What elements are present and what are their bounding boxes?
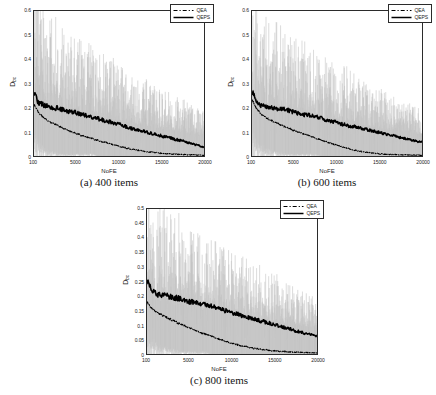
x-axis-label-b: NoFE (218, 168, 436, 174)
y-tick-label: 0.45 (122, 220, 144, 226)
x-tick-label: 5000 (183, 357, 194, 363)
legend-c: QEA QEPS (280, 200, 325, 219)
y-axis-label-main-b: D (227, 82, 234, 87)
x-tick-label: 10000 (330, 159, 343, 165)
caption-a: (a) 400 items (0, 176, 218, 188)
y-axis-label-b: Dbc (227, 67, 235, 97)
x-tick-label: 100 (142, 357, 150, 363)
y-tick-label: 0.05 (122, 337, 144, 343)
caption-b: (b) 600 items (218, 176, 436, 188)
y-axis-label-main-c: D (122, 280, 129, 285)
chart-figure-a: 00.10.20.30.40.50.6 10050001000015000200… (0, 0, 218, 192)
plot-canvas-c (147, 209, 317, 354)
y-tick-label: 0.1 (122, 323, 144, 329)
y-axis-label-main-a: D (9, 82, 16, 87)
x-tick-label: 10000 (225, 357, 238, 363)
x-tick-label: 20000 (198, 159, 211, 165)
legend-label-qeps-b: QEPS (415, 14, 429, 21)
x-tick-label: 100 (29, 159, 37, 165)
y-tick-label: 0.6 (9, 7, 31, 13)
x-axis-label-c: NoFE (110, 366, 328, 372)
y-tick-label: 0.5 (227, 32, 249, 38)
x-tick-label: 15000 (155, 159, 168, 165)
y-axis-label-sub-b: bc (230, 77, 235, 81)
chart-figure-b: 00.10.20.30.40.50.6 10050001000015000200… (218, 0, 436, 192)
caption-c: (c) 800 items (110, 374, 328, 386)
legend-key-solid-icon-c (283, 210, 304, 217)
y-axis-label-a: Dbc (9, 67, 17, 97)
y-axis-label-c: Dbc (122, 265, 130, 295)
plot-area-b (251, 10, 423, 157)
legend-entry-qeps-c: QEPS (283, 210, 321, 217)
y-tick-label: 0.1 (227, 130, 249, 136)
y-tick-label: 0.4 (227, 56, 249, 62)
legend-entry-qea-b: QEA (391, 7, 429, 14)
legend-label-qea-c: QEA (307, 203, 317, 210)
legend-entry-qea-c: QEA (283, 203, 321, 210)
legend-key-dashdot-icon-a (173, 7, 194, 14)
y-tick-label: 0.5 (122, 205, 144, 211)
plot-area-c (146, 208, 318, 355)
legend-key-dashdot-icon-b (391, 7, 412, 14)
panel-c: 00.050.10.150.20.250.30.350.40.450.5 100… (110, 196, 328, 395)
legend-a: QEA QEPS (170, 4, 215, 23)
legend-entry-qea-a: QEA (173, 7, 211, 14)
x-tick-label: 15000 (268, 357, 281, 363)
x-axis-label-a: NoFE (0, 168, 218, 174)
x-tick-label: 15000 (373, 159, 386, 165)
y-tick-label: 0.5 (9, 32, 31, 38)
y-tick-label: 0 (122, 352, 144, 358)
legend-key-solid-icon-a (173, 14, 194, 21)
x-tick-label: 10000 (112, 159, 125, 165)
y-tick-label: 0.4 (122, 234, 144, 240)
x-tick-label: 5000 (70, 159, 81, 165)
y-tick-label: 0.4 (9, 56, 31, 62)
y-tick-label: 0.6 (227, 7, 249, 13)
y-tick-label: 0.1 (9, 130, 31, 136)
legend-label-qeps-c: QEPS (307, 210, 321, 217)
y-tick-label: 0 (9, 154, 31, 160)
y-tick-label: 0.2 (9, 105, 31, 111)
plot-canvas-b (252, 11, 422, 156)
legend-label-qea-a: QEA (197, 7, 207, 14)
x-tick-label: 20000 (416, 159, 429, 165)
legend-label-qea-b: QEA (415, 7, 425, 14)
panel-b: 00.10.20.30.40.50.6 10050001000015000200… (218, 0, 436, 192)
panel-a: 00.10.20.30.40.50.6 10050001000015000200… (0, 0, 218, 192)
x-tick-label: 100 (247, 159, 255, 165)
legend-b: QEA QEPS (388, 4, 433, 23)
y-tick-label: 0.35 (122, 249, 144, 255)
legend-key-solid-icon-b (391, 14, 412, 21)
plot-area-a (33, 10, 205, 157)
x-tick-label: 20000 (311, 357, 324, 363)
chart-figure-c: 00.050.10.150.20.250.30.350.40.450.5 100… (110, 196, 328, 395)
plot-canvas-a (34, 11, 204, 156)
y-tick-label: 0.2 (227, 105, 249, 111)
y-axis-label-sub-a: bc (12, 77, 17, 81)
legend-label-qeps-a: QEPS (197, 14, 211, 21)
legend-entry-qeps-b: QEPS (391, 14, 429, 21)
y-tick-label: 0.15 (122, 308, 144, 314)
y-axis-label-sub-c: bc (125, 275, 130, 279)
legend-key-dashdot-icon-c (283, 203, 304, 210)
y-tick-label: 0 (227, 154, 249, 160)
x-tick-label: 5000 (288, 159, 299, 165)
legend-entry-qeps-a: QEPS (173, 14, 211, 21)
